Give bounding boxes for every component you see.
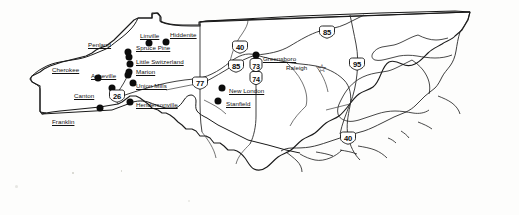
city-label-greensboro[interactable]: Greensboro [263, 55, 296, 62]
interstate-shield-85-piedmont: 85 [227, 59, 246, 73]
north-carolina-map: Cherokee Franklin Canton Asheville Penla… [0, 0, 519, 215]
shield-number: 40 [339, 131, 358, 145]
scan-artifact [188, 200, 190, 202]
scan-artifact [121, 170, 122, 172]
city-marker[interactable] [127, 61, 134, 68]
interstate-shield-40-west: 40 [231, 40, 250, 54]
us-route-shield-74: 74 [249, 71, 264, 86]
city-label-franklin[interactable]: Franklin [52, 118, 74, 125]
city-label-linville[interactable]: Linville [140, 32, 159, 39]
city-marker[interactable] [219, 85, 226, 92]
interstate-shield-95: 95 [348, 57, 367, 71]
city-marker[interactable] [215, 98, 222, 105]
city-label-hendersonville[interactable]: Hendersonville [136, 101, 178, 108]
shield-number: 85 [227, 59, 246, 73]
city-marker[interactable] [126, 69, 133, 76]
city-label-raleigh: Raleigh [286, 64, 307, 71]
shield-number: 40 [231, 40, 250, 54]
interstate-shield-26: 26 [108, 89, 127, 103]
interstate-shield-40-southeast: 40 [339, 131, 358, 145]
state-outline-and-roads [0, 0, 519, 215]
city-label-little-switzerland[interactable]: Little Switzerland [136, 58, 184, 65]
shield-number: 77 [191, 76, 210, 90]
city-label-stanfield[interactable]: Stanfield [226, 100, 251, 107]
city-marker[interactable] [126, 54, 133, 61]
city-label-union-mills[interactable]: Union Mills [136, 82, 167, 89]
shield-number: 95 [348, 57, 367, 71]
city-label-hiddenite[interactable]: Hiddenite [170, 31, 197, 38]
scan-artifact [72, 172, 74, 174]
city-label-asheville[interactable]: Asheville [91, 72, 116, 79]
shield-number: 74 [249, 71, 264, 86]
city-marker[interactable] [127, 99, 134, 106]
city-label-marion[interactable]: Marion [136, 68, 155, 75]
city-marker[interactable] [97, 105, 104, 112]
city-label-new-london[interactable]: New London [229, 87, 264, 94]
city-label-canton[interactable]: Canton [74, 92, 94, 99]
city-label-spruce-pine[interactable]: Spruce Pine [136, 44, 170, 51]
city-label-penland[interactable]: Penland [88, 41, 111, 48]
shield-number: 26 [108, 89, 127, 103]
state-capital-star-icon: ☆ [317, 63, 327, 74]
scan-artifact [15, 185, 18, 188]
cape-lookout-cape-fear [286, 150, 342, 172]
interstate-shield-77: 77 [191, 76, 210, 90]
interstate-shield-85-north: 85 [318, 25, 337, 39]
city-label-cherokee[interactable]: Cherokee [52, 66, 79, 73]
shield-number: 85 [318, 25, 337, 39]
